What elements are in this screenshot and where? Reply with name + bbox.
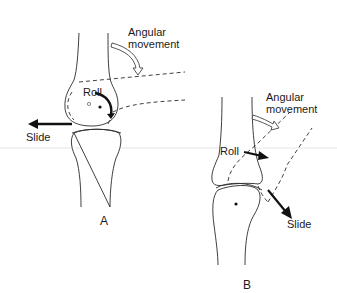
panel-a-lower-bone: [71, 129, 121, 207]
panel-a-slide-label: Slide: [26, 131, 50, 143]
panel-b-movement-label: movement: [266, 103, 317, 115]
panel-b-lower-bone: [213, 185, 260, 265]
panel-a-axis-dot: [98, 105, 101, 108]
panel-a-label: A: [100, 214, 108, 228]
panel-a-angular-label: Angular: [128, 26, 166, 38]
panel-a-roll-label: Roll: [83, 86, 102, 98]
panel-b: [212, 97, 312, 265]
panel-b-upper-bone: [212, 97, 263, 185]
panel-a-movement-label: movement: [128, 38, 179, 50]
panel-b-label: B: [243, 278, 251, 292]
joint-mechanics-diagram: Angular movement Roll Slide A Angular mo…: [0, 0, 337, 293]
panel-b-slide-arrow: [268, 190, 286, 212]
panel-b-slide-label: Slide: [287, 218, 311, 230]
panel-b-axis-dot: [234, 202, 237, 205]
panel-b-angular-label: Angular: [266, 91, 304, 103]
panel-b-angular-arrow: [252, 115, 279, 130]
panel-b-roll-label: Roll: [220, 145, 239, 157]
panel-a: [28, 33, 185, 207]
